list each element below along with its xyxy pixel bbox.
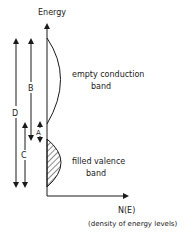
density-axis-label: N(E) — [118, 206, 135, 215]
valence-band-label-1: filled valence — [72, 157, 125, 166]
arrow-a-label: A — [36, 129, 41, 137]
conduction-band-label-2: band — [91, 82, 111, 91]
density-axis-sublabel: (density of energy levels) — [88, 220, 178, 228]
arrow-d-label: D — [12, 109, 18, 118]
valence-band-label-2: band — [86, 169, 106, 178]
band-diagram: Energy empty conduction band filled vale… — [0, 0, 193, 237]
energy-axis-label: Energy — [38, 8, 66, 17]
valence-band-fill — [47, 139, 61, 187]
arrow-b-label: B — [28, 84, 34, 93]
conduction-band-curve — [47, 38, 61, 124]
arrow-c-label: C — [21, 151, 27, 160]
conduction-band-label-1: empty conduction — [72, 70, 144, 79]
